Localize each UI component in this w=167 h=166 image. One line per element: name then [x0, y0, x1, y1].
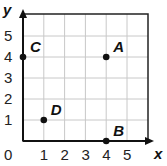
point-label: A: [112, 38, 124, 55]
coordinate-plane: y x 012345 12345 ABCD: [0, 0, 167, 166]
point-marker-icon: [41, 117, 48, 124]
x-axis-arrow-icon: [145, 137, 154, 145]
point-marker-icon: [20, 54, 27, 61]
x-tick-labels: 012345: [4, 146, 131, 163]
x-tick-label: 2: [61, 146, 69, 163]
x-tick-label: 1: [40, 146, 48, 163]
y-tick-label: 1: [4, 111, 12, 128]
x-axis: [23, 137, 154, 145]
x-tick-label: 5: [123, 146, 131, 163]
point-marker-icon: [103, 54, 110, 61]
point-label: C: [30, 38, 42, 55]
point-marker-icon: [103, 138, 110, 145]
x-tick-label: 0: [4, 146, 12, 163]
y-tick-label: 5: [4, 27, 12, 44]
x-tick-label: 3: [81, 146, 89, 163]
x-axis-label: x: [153, 145, 163, 162]
x-tick-label: 4: [102, 146, 110, 163]
point-label: B: [113, 122, 124, 139]
y-axis-label: y: [2, 1, 12, 18]
y-axis: [19, 9, 27, 141]
data-points: ABCD: [20, 38, 125, 144]
y-tick-label: 3: [4, 69, 12, 86]
y-tick-label: 4: [4, 48, 12, 65]
y-tick-label: 2: [4, 90, 12, 107]
y-tick-labels: 12345: [4, 27, 12, 128]
point-label: D: [51, 101, 62, 118]
